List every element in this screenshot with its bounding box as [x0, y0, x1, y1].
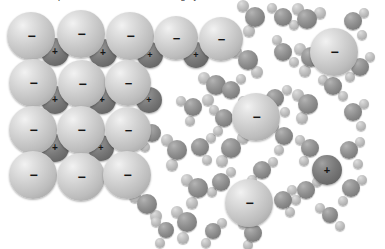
- oxygen-atom: [188, 178, 208, 198]
- negative-charge-icon: −: [173, 32, 180, 45]
- oxygen-atom: [191, 138, 209, 156]
- hydrogen-atom: [335, 221, 345, 231]
- hydrogen-atom: [236, 74, 246, 84]
- oxygen-atom: [158, 222, 174, 238]
- negative-charge-icon: −: [78, 77, 85, 91]
- negative-charge-icon: −: [125, 124, 132, 137]
- oxygen-atom: [238, 50, 258, 70]
- negative-charge-icon: −: [77, 123, 84, 137]
- dissolution-illustration: solid in water produces a solution conta…: [0, 0, 385, 249]
- lattice-anion: −: [106, 12, 154, 60]
- hydrogen-atom: [274, 145, 284, 155]
- lattice-anion: −: [9, 151, 57, 199]
- lattice-anion: −: [57, 10, 105, 58]
- hydrogen-atom: [166, 159, 178, 171]
- oxygen-atom: [275, 127, 293, 145]
- negative-charge-icon: −: [125, 77, 132, 90]
- solvated-anion-top-right: −: [310, 28, 358, 76]
- hydrogen-atom: [186, 197, 198, 209]
- solvated-anion-bottom: −: [225, 179, 273, 227]
- oxygen-atom: [245, 7, 265, 27]
- hydrogen-atom: [285, 207, 295, 217]
- positive-charge-icon: +: [52, 95, 58, 105]
- solvated-anion-center: −: [232, 93, 280, 141]
- lattice-anion: −: [57, 106, 105, 154]
- negative-charge-icon: −: [245, 196, 252, 210]
- hydrogen-atom: [213, 126, 223, 136]
- lattice-anion: −: [7, 12, 55, 60]
- positive-charge-icon: +: [193, 51, 198, 60]
- oxygen-atom: [137, 194, 157, 214]
- hydrogen-atom: [338, 196, 348, 206]
- positive-charge-icon: +: [146, 96, 151, 105]
- hydrogen-atom: [289, 57, 299, 67]
- oxygen-atom: [297, 181, 315, 199]
- positive-charge-icon: +: [147, 51, 152, 60]
- oxygen-atom: [344, 12, 362, 30]
- oxygen-atom: [274, 8, 292, 26]
- positive-charge-icon: +: [100, 48, 106, 58]
- negative-charge-icon: −: [126, 29, 133, 43]
- positive-charge-icon: +: [52, 47, 58, 57]
- hydrogen-atom: [202, 155, 212, 165]
- hydrogen-atom: [299, 156, 309, 166]
- lattice-anion: −: [58, 60, 106, 108]
- negative-charge-icon: −: [77, 170, 84, 184]
- oxygen-atom: [301, 139, 319, 157]
- oxygen-atom: [177, 212, 197, 232]
- negative-charge-icon: −: [218, 33, 225, 46]
- hydrogen-atom: [185, 116, 195, 126]
- hydrogen-atom: [155, 238, 165, 248]
- negative-charge-icon: −: [330, 45, 337, 59]
- oxygen-atom: [324, 77, 342, 95]
- oxygen-atom: [274, 43, 292, 61]
- oxygen-atom: [222, 81, 240, 99]
- negative-charge-icon: −: [29, 168, 36, 182]
- oxygen-atom: [184, 98, 202, 116]
- hydrogen-atom: [353, 159, 363, 169]
- hydrogen-atom: [280, 107, 290, 117]
- hydrogen-atom: [356, 121, 366, 131]
- lattice-anion: −: [9, 59, 57, 107]
- positive-charge-icon: +: [324, 165, 330, 176]
- lattice-anion: −: [105, 60, 151, 106]
- negative-charge-icon: −: [77, 27, 84, 41]
- hydrogen-atom: [201, 238, 211, 248]
- oxygen-atom: [274, 191, 292, 209]
- oxygen-atom: [298, 94, 318, 114]
- oxygen-atom: [342, 179, 360, 197]
- lattice-anion: −: [154, 16, 198, 60]
- negative-charge-icon: −: [252, 110, 259, 124]
- oxygen-atom: [253, 161, 271, 179]
- negative-charge-icon: −: [29, 76, 36, 90]
- oxygen-atom: [322, 207, 338, 223]
- oxygen-atom: [221, 138, 241, 158]
- oxygen-atom: [344, 103, 362, 121]
- hydrogen-atom: [338, 91, 348, 101]
- positive-charge-icon: +: [52, 143, 58, 153]
- lattice-anion: −: [103, 151, 151, 199]
- oxygen-atom: [215, 109, 233, 127]
- oxygen-atom: [205, 223, 221, 239]
- hydrogen-atom: [177, 232, 189, 244]
- lattice-anion: −: [57, 153, 105, 201]
- oxygen-atom: [340, 141, 358, 159]
- negative-charge-icon: −: [123, 168, 130, 182]
- hydrogen-atom: [282, 85, 292, 95]
- negative-charge-icon: −: [27, 29, 34, 43]
- oxygen-atom: [297, 9, 317, 29]
- lattice-anion: −: [105, 107, 151, 153]
- solvated-cation-right: +: [312, 155, 342, 185]
- hydrogen-atom: [357, 30, 367, 40]
- negative-charge-icon: −: [29, 123, 36, 137]
- oxygen-atom: [212, 173, 230, 191]
- lattice-anion: −: [9, 106, 57, 154]
- oxygen-atom: [167, 140, 187, 160]
- lattice-anion: −: [199, 17, 243, 61]
